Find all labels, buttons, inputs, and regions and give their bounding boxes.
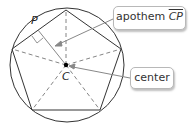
center-point [64,63,68,67]
apothem-callout: apothem CP [113,6,186,30]
point-c-label: C [62,70,70,83]
center-callout-text: center [134,71,169,84]
apothem-segment-label: CP [169,10,183,23]
regular-pentagon [12,10,121,110]
apothem-callout-text: apothem [116,10,169,23]
apothem-segment [38,30,66,65]
center-callout: center [130,67,174,89]
right-angle-mark [32,36,43,43]
point-p-label: P [31,14,38,27]
